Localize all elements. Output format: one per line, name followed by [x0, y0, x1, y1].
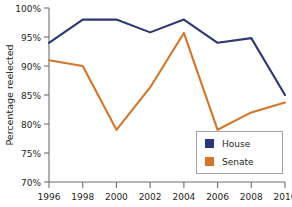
legend-swatch-house	[205, 139, 214, 148]
legend-box	[197, 132, 283, 174]
x-tick-label: 1998	[71, 192, 94, 202]
y-tick-label: 90%	[21, 62, 41, 72]
x-tick-label: 1996	[38, 192, 61, 202]
series-line-senate	[49, 33, 285, 130]
x-tick-label: 2008	[240, 192, 263, 202]
y-tick-label: 95%	[21, 33, 41, 43]
x-tick-label: 2000	[105, 192, 128, 202]
chart-figure: 100% 95% 90% 85% 80% 75% 70% 1996 1998 2…	[0, 0, 292, 207]
y-tick-label: 70%	[21, 178, 41, 188]
y-tick-label: 75%	[21, 149, 41, 159]
y-axis-title: Percentage reelected	[4, 44, 15, 145]
chart-legend: House Senate	[197, 132, 283, 174]
series-line-house	[49, 20, 285, 95]
x-tick-label: 2004	[172, 192, 195, 202]
y-axis-ticks	[44, 8, 49, 182]
y-tick-label: 80%	[21, 120, 41, 130]
legend-label-house: House	[222, 139, 251, 149]
y-tick-label: 85%	[21, 91, 41, 101]
x-axis-ticks	[49, 182, 285, 188]
legend-swatch-senate	[205, 157, 214, 166]
line-chart: 100% 95% 90% 85% 80% 75% 70% 1996 1998 2…	[0, 0, 292, 207]
legend-label-senate: Senate	[222, 157, 254, 167]
x-tick-label: 2002	[139, 192, 162, 202]
y-tick-label: 100%	[15, 4, 41, 14]
x-tick-label: 2006	[206, 192, 229, 202]
y-axis-tick-labels: 100% 95% 90% 85% 80% 75% 70%	[15, 4, 41, 188]
x-tick-label: 2010	[274, 192, 292, 202]
x-axis-tick-labels: 1996 1998 2000 2002 2004 2006 2008 2010	[38, 192, 292, 202]
